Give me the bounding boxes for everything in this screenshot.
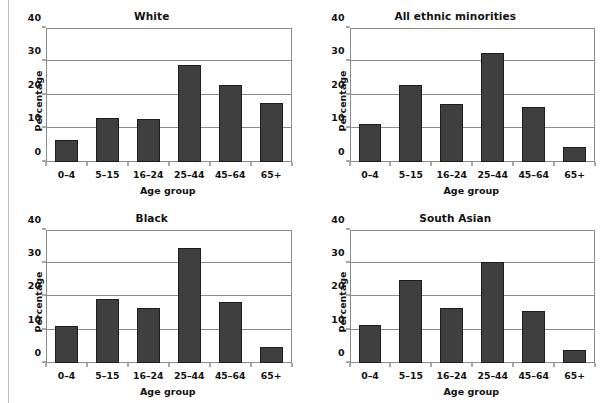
x-tick-label: 45–64 bbox=[513, 169, 554, 180]
x-tick-label: 5–15 bbox=[87, 370, 128, 381]
x-tick-label: 5–15 bbox=[87, 169, 128, 180]
x-tick-mark bbox=[86, 162, 87, 166]
x-tick-mark bbox=[472, 363, 473, 367]
x-tick-mark bbox=[513, 162, 514, 166]
bar-slot bbox=[431, 28, 472, 162]
x-tick-mark bbox=[46, 162, 47, 166]
y-tick-20: 20 bbox=[331, 280, 349, 291]
bar bbox=[219, 302, 242, 363]
bar-slot bbox=[128, 28, 169, 162]
bar bbox=[522, 311, 545, 363]
y-tick-40: 40 bbox=[28, 213, 46, 224]
small-multiples-bar-chart-figure: White Percentage 0 10 20 30 40 0–45–1516… bbox=[0, 0, 607, 403]
x-tick-label: 0–4 bbox=[350, 370, 391, 381]
y-tick-0: 0 bbox=[338, 145, 350, 156]
bar-slot bbox=[390, 28, 431, 162]
bar bbox=[96, 299, 119, 363]
x-tick-mark bbox=[168, 162, 169, 166]
bar-slot bbox=[46, 28, 87, 162]
x-tick-label: 0–4 bbox=[46, 370, 87, 381]
x-tick-mark bbox=[595, 363, 596, 367]
x-tick-mark bbox=[127, 363, 128, 367]
y-tick-10: 10 bbox=[28, 313, 46, 324]
x-tick-mark bbox=[209, 162, 210, 166]
x-tick-label: 25–44 bbox=[169, 169, 210, 180]
x-tick-label: 16–24 bbox=[128, 169, 169, 180]
x-tick-label: 45–64 bbox=[210, 370, 251, 381]
bar bbox=[522, 107, 545, 161]
y-tick-20: 20 bbox=[28, 78, 46, 89]
bar-slot bbox=[128, 230, 169, 364]
x-tick-mark bbox=[513, 363, 514, 367]
bar-slot bbox=[46, 230, 87, 364]
x-tick-label: 0–4 bbox=[46, 169, 87, 180]
y-tick-20: 20 bbox=[28, 280, 46, 291]
y-tick-10: 10 bbox=[331, 112, 349, 123]
bar-slot bbox=[513, 28, 554, 162]
bar-slot bbox=[431, 230, 472, 364]
x-tick-mark bbox=[431, 363, 432, 367]
bar bbox=[440, 308, 463, 363]
bar bbox=[96, 118, 119, 161]
bar bbox=[563, 350, 586, 363]
bar-slot bbox=[350, 230, 391, 364]
panel-white: White Percentage 0 10 20 30 40 0–45–1516… bbox=[0, 0, 304, 202]
x-tick-mark bbox=[595, 162, 596, 166]
x-tick-label: 45–64 bbox=[513, 370, 554, 381]
y-tick-10: 10 bbox=[28, 112, 46, 123]
y-tick-30: 30 bbox=[331, 246, 349, 257]
x-tick-label: 25–44 bbox=[472, 370, 513, 381]
plot-area-black: 0 10 20 30 40 0–45–1516–2425–4445–6465+ bbox=[46, 230, 292, 364]
x-axis-label: Age group bbox=[344, 185, 600, 196]
bar-slot bbox=[472, 28, 513, 162]
bar-series-south-asian bbox=[350, 230, 596, 364]
y-tick-0: 0 bbox=[34, 347, 46, 358]
bar bbox=[178, 248, 201, 363]
y-tick-40: 40 bbox=[331, 12, 349, 23]
bar-slot bbox=[350, 28, 391, 162]
bar-series-black bbox=[46, 230, 292, 364]
y-tick-40: 40 bbox=[331, 213, 349, 224]
x-tick-mark bbox=[209, 363, 210, 367]
bar bbox=[399, 280, 422, 363]
x-tick-label: 65+ bbox=[251, 169, 292, 180]
bar-slot bbox=[390, 230, 431, 364]
x-tick-mark bbox=[554, 162, 555, 166]
x-tick-label: 65+ bbox=[554, 370, 595, 381]
plot-area-all-ethnic-minorities: 0 10 20 30 40 0–45–1516–2425–4445–6465+ bbox=[350, 28, 596, 162]
plot-area-south-asian: 0 10 20 30 40 0–45–1516–2425–4445–6465+ bbox=[350, 230, 596, 364]
x-tick-mark bbox=[390, 363, 391, 367]
x-tick-label: 0–4 bbox=[350, 169, 391, 180]
x-tick-mark bbox=[554, 363, 555, 367]
x-tick-mark bbox=[349, 363, 350, 367]
x-tick-label: 16–24 bbox=[431, 370, 472, 381]
y-tick-20: 20 bbox=[331, 78, 349, 89]
bar-slot bbox=[513, 230, 554, 364]
bar bbox=[399, 85, 422, 162]
x-tick-label: 5–15 bbox=[390, 169, 431, 180]
bar-slot bbox=[169, 230, 210, 364]
y-tick-30: 30 bbox=[28, 45, 46, 56]
x-tick-mark bbox=[390, 162, 391, 166]
bar-slot bbox=[472, 230, 513, 364]
x-tick-label: 16–24 bbox=[128, 370, 169, 381]
bar-slot bbox=[554, 28, 595, 162]
x-tick-label: 5–15 bbox=[390, 370, 431, 381]
bar-slot bbox=[169, 28, 210, 162]
x-axis-label: Age group bbox=[40, 185, 296, 196]
bar bbox=[137, 308, 160, 363]
y-tick-40: 40 bbox=[28, 12, 46, 23]
panel-all-ethnic-minorities: All ethnic minorities Percentage 0 10 20… bbox=[304, 0, 607, 202]
x-axis-label: Age group bbox=[344, 386, 600, 397]
x-tick-label: 45–64 bbox=[210, 169, 251, 180]
plot-area-white: 0 10 20 30 40 0–45–1516–2425–4445–6465+ bbox=[46, 28, 292, 162]
x-tick-mark bbox=[168, 363, 169, 367]
panel-south-asian: South Asian Percentage 0 10 20 30 40 0–4… bbox=[304, 202, 607, 403]
y-tick-30: 30 bbox=[331, 45, 349, 56]
y-tick-30: 30 bbox=[28, 246, 46, 257]
bar bbox=[440, 104, 463, 162]
bar-slot bbox=[554, 230, 595, 364]
x-tick-label: 65+ bbox=[251, 370, 292, 381]
bar bbox=[481, 262, 504, 363]
bar-slot bbox=[251, 230, 292, 364]
